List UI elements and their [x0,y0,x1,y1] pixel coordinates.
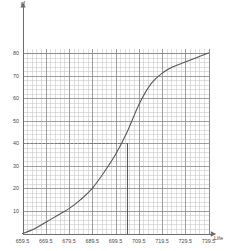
x-axis-tick-label: 679.5 [62,238,76,244]
x-axis-tick-label: 699.5 [109,238,123,244]
x-axis-tick-labels: 659.5669.5679.5689.5699.5709.5719.5729.5… [16,238,216,244]
x-axis-title: Life [214,235,223,241]
x-axis-tick-label: 659.5 [16,238,30,244]
axes [20,2,216,237]
y-axis-tick-label: 20 [13,185,19,191]
chart-canvas: 1020304050607080 659.5669.5679.5689.5699… [0,0,231,251]
y-axis-tick-label: 30 [13,163,19,169]
x-axis-tick-label: 719.5 [155,238,169,244]
x-axis-tick-label: 669.5 [39,238,53,244]
y-axis-tick-labels: 1020304050607080 [13,50,19,214]
y-axis-tick-label: 40 [13,140,19,146]
cumulative-frequency-ogive-chart: 1020304050607080 659.5669.5679.5689.5699… [0,0,231,251]
x-axis-tick-label: 729.5 [179,238,193,244]
y-axis-tick-label: 70 [13,73,19,79]
y-axis-tick-label: 50 [13,118,19,124]
y-axis-title: cf [21,0,26,6]
y-axis-tick-label: 80 [13,50,19,56]
y-axis-tick-label: 10 [13,208,19,214]
y-axis-tick-label: 60 [13,95,19,101]
x-axis-tick-label: 689.5 [86,238,100,244]
x-axis-tick-label: 709.5 [132,238,146,244]
